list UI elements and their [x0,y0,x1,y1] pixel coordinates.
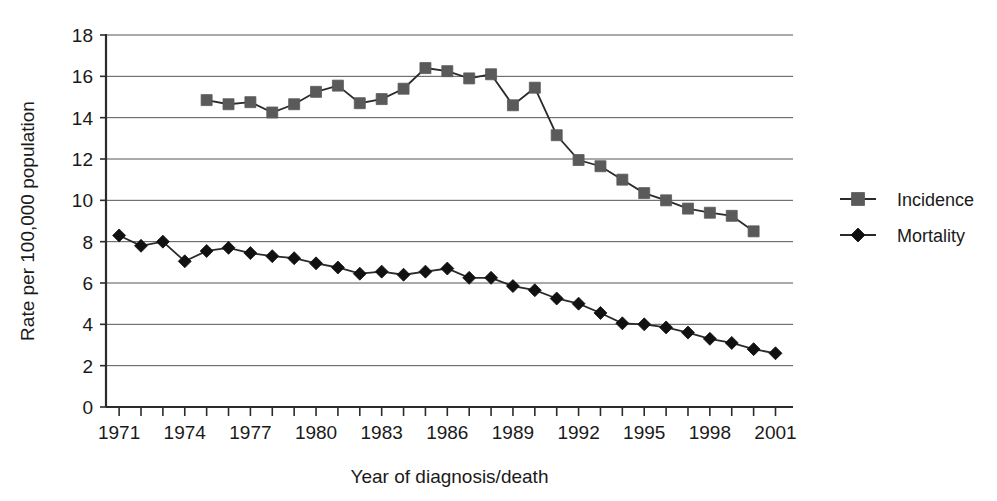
data-point-marker [661,195,672,206]
legend-label: Incidence [897,190,974,210]
y-axis-title: Rate per 100,000 population [17,101,38,341]
data-point-marker [682,203,693,214]
x-tick-label: 1977 [229,422,271,443]
x-tick-label: 1992 [557,422,599,443]
y-tick-label: 18 [72,25,93,46]
legend-label: Mortality [897,226,965,246]
data-point-marker [748,226,759,237]
chart-figure: 024681012141618 197119741977198019831986… [0,0,997,501]
data-point-marker [704,207,715,218]
data-point-marker [332,80,343,91]
y-tick-label: 14 [72,108,94,129]
data-point-marker [595,161,606,172]
y-tick-label: 12 [72,149,93,170]
x-tick-label: 1986 [426,422,468,443]
y-tick-label: 0 [82,397,93,418]
x-tick-label: 1998 [689,422,731,443]
line-chart-svg: 024681012141618 197119741977198019831986… [0,0,997,501]
data-point-marker [464,73,475,84]
data-point-marker [726,210,737,221]
y-tick-label: 16 [72,66,93,87]
data-point-marker [617,174,628,185]
data-point-marker [529,82,540,93]
x-tick-label: 1971 [98,422,140,443]
x-tick-label: 1980 [295,422,337,443]
data-point-marker [551,130,562,141]
data-point-marker [245,97,256,108]
data-point-marker [507,100,518,111]
x-axis-title: Year of diagnosis/death [351,466,549,487]
x-tick-label: 1983 [361,422,403,443]
data-point-marker [486,69,497,80]
y-tick-label: 8 [82,232,93,253]
data-point-marker [289,99,300,110]
x-tick-label: 2001 [754,422,796,443]
y-tick-label: 4 [82,314,93,335]
data-point-marker [311,86,322,97]
x-tick-label: 1974 [164,422,207,443]
y-tick-label: 2 [82,356,93,377]
x-tick-label: 1995 [623,422,665,443]
data-point-marker [223,99,234,110]
x-axis-tick-labels: 1971197419771980198319861989199219951998… [98,422,797,443]
data-point-marker [201,95,212,106]
y-tick-label: 10 [72,190,93,211]
x-tick-label: 1989 [492,422,534,443]
data-point-marker [420,63,431,74]
data-point-marker [398,83,409,94]
data-point-marker [639,188,650,199]
data-point-marker [267,107,278,118]
data-point-marker [442,66,453,77]
data-point-marker [376,94,387,105]
data-point-marker [354,98,365,109]
square-marker [852,193,865,206]
data-point-marker [573,155,584,166]
y-tick-label: 6 [82,273,93,294]
